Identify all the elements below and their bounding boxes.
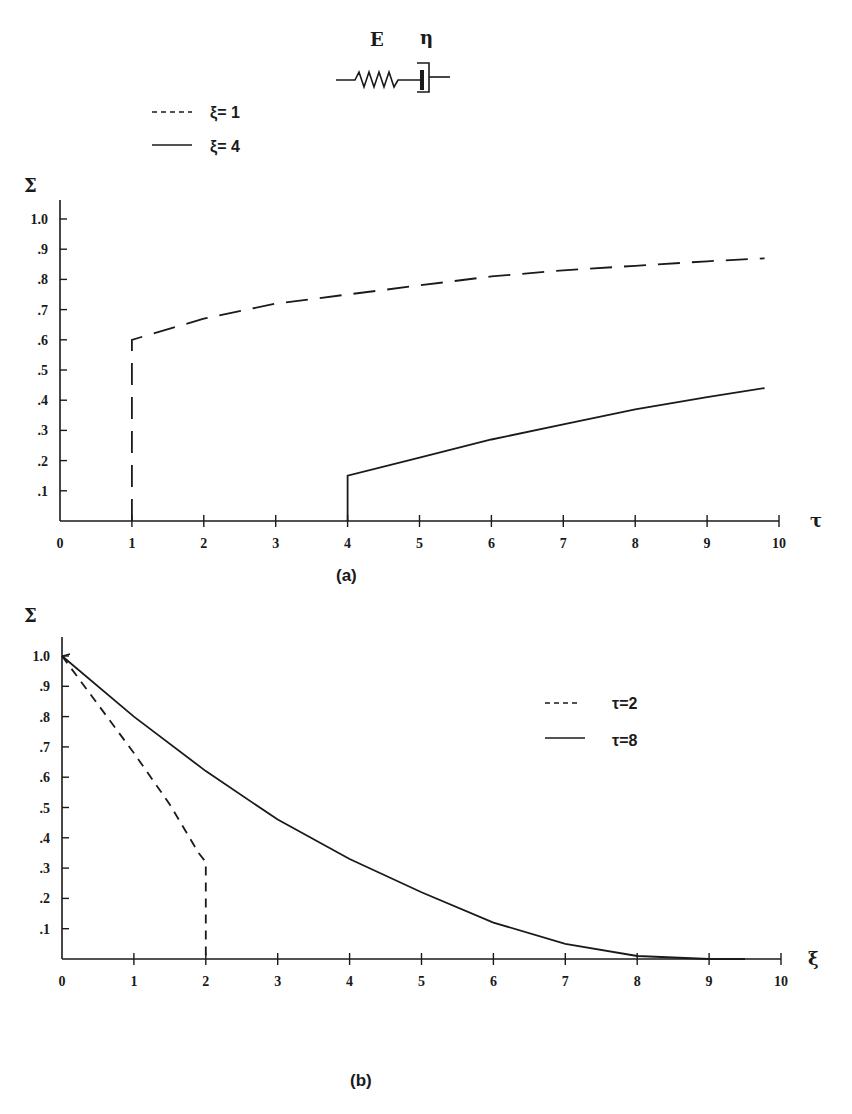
x-tick-label: 1 — [130, 974, 137, 989]
x-tick-label: 7 — [562, 974, 569, 989]
x-tick-label: 10 — [772, 536, 786, 551]
x-tick-label: 2 — [202, 974, 209, 989]
x-tick-label: 3 — [272, 536, 279, 551]
y-tick-label: 1.0 — [33, 649, 51, 664]
y-tick-label: .8 — [38, 272, 49, 287]
y-tick-label: .5 — [40, 801, 51, 816]
y-tick-label: .2 — [38, 454, 49, 469]
y-tick-label: 1.0 — [31, 212, 49, 227]
x-axis-title: τ — [810, 510, 822, 531]
y-axis-title: Σ — [24, 605, 37, 626]
x-tick-label: 8 — [634, 974, 641, 989]
y-tick-label: .8 — [40, 710, 51, 725]
chart-a: 0123456789101.0.9.8.7.6.5.4.3.2.1τΣ — [24, 175, 822, 551]
series-dashed-line — [132, 258, 765, 521]
y-tick-label: .6 — [38, 333, 49, 348]
maxwell-model-diagram: E η — [336, 27, 450, 92]
series-solid-line — [62, 656, 745, 959]
series-dashed-line — [62, 656, 206, 959]
x-tick-label: 1 — [128, 536, 135, 551]
caption-b: (b) — [350, 1071, 372, 1090]
x-tick-label: 8 — [632, 536, 639, 551]
caption-a: (a) — [336, 566, 357, 585]
y-tick-label: .9 — [38, 242, 49, 257]
legend-label-xi4: ξ= 4 — [210, 138, 240, 156]
series-solid-line — [348, 388, 765, 521]
x-tick-label: 4 — [344, 536, 351, 551]
x-tick-label: 5 — [416, 536, 423, 551]
spring-icon — [336, 72, 420, 87]
x-tick-label: 4 — [346, 974, 353, 989]
legend-label-tau8: τ=8 — [612, 732, 637, 749]
chart-b: 0123456789101.0.9.8.7.6.5.4.3.2.1ξΣ — [24, 605, 819, 989]
x-tick-label: 9 — [704, 536, 711, 551]
x-tick-label: 0 — [59, 974, 66, 989]
y-tick-label: .1 — [40, 922, 51, 937]
x-tick-label: 3 — [274, 974, 281, 989]
y-axis-title: Σ — [24, 175, 37, 196]
y-tick-label: .9 — [40, 679, 51, 694]
y-tick-label: .4 — [38, 393, 49, 408]
x-axis-title: ξ — [808, 948, 819, 969]
dashpot-icon — [417, 63, 450, 92]
y-tick-label: .3 — [40, 861, 51, 876]
x-tick-label: 2 — [200, 536, 207, 551]
x-tick-label: 10 — [774, 974, 788, 989]
y-tick-label: .2 — [40, 891, 51, 906]
y-tick-label: .3 — [38, 423, 49, 438]
legend-label-tau2: τ=2 — [612, 695, 637, 712]
x-tick-label: 0 — [57, 536, 64, 551]
figure-canvas: E η ξ= 1 ξ= 4 0123456789101.0.9.8.7.6.5.… — [0, 0, 852, 1114]
spring-label: E — [370, 29, 384, 50]
legend-a: ξ= 1 ξ= 4 — [152, 104, 240, 156]
y-tick-label: .7 — [38, 303, 49, 318]
legend-label-xi1: ξ= 1 — [210, 104, 240, 122]
x-tick-label: 6 — [490, 974, 497, 989]
x-tick-label: 9 — [706, 974, 713, 989]
y-tick-label: .5 — [38, 363, 49, 378]
y-tick-label: .7 — [40, 740, 51, 755]
x-tick-label: 5 — [418, 974, 425, 989]
legend-b: τ=2 τ=8 — [545, 695, 637, 749]
x-tick-label: 6 — [488, 536, 495, 551]
x-tick-label: 7 — [560, 536, 567, 551]
y-tick-label: .1 — [38, 484, 49, 499]
y-tick-label: .6 — [40, 770, 51, 785]
y-tick-label: .4 — [40, 831, 51, 846]
dashpot-label: η — [420, 27, 433, 48]
